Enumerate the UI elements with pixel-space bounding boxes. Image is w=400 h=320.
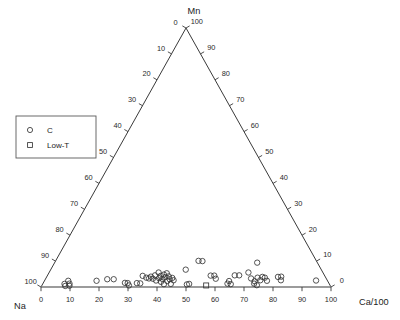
right-axis-tick xyxy=(302,233,306,235)
right-axis-tick-label: 70 xyxy=(236,95,244,104)
left-axis-tick-label: 60 xyxy=(84,173,92,182)
data-point-c xyxy=(200,258,205,263)
axis-tick-labels: 0102030405060708090100100908070605040302… xyxy=(24,17,343,304)
right-axis-tick-label: 80 xyxy=(222,69,230,78)
left-axis-tick xyxy=(66,233,70,235)
legend: CLow-T xyxy=(16,116,96,158)
data-point-c xyxy=(246,270,251,275)
right-axis-tick-label: 90 xyxy=(207,43,215,52)
legend-box xyxy=(16,116,96,158)
right-axis-tick xyxy=(186,26,190,28)
data-point-c xyxy=(183,267,188,272)
data-point-c xyxy=(111,277,116,282)
left-axis-tick xyxy=(124,130,128,132)
right-axis-tick-label: 100 xyxy=(191,17,203,26)
left-axis-tick xyxy=(95,181,99,183)
ternary-diagram-canvas: 0102030405060708090100100908070605040302… xyxy=(0,0,400,320)
right-axis-tick xyxy=(215,78,219,80)
right-axis-tick-label: 50 xyxy=(265,147,273,156)
bottom-axis-tick-label: 40 xyxy=(153,295,161,304)
left-axis-tick xyxy=(110,155,114,157)
right-axis-tick xyxy=(230,104,234,106)
right-axis-tick-label: 0 xyxy=(340,276,344,285)
left-axis-tick-label: 0 xyxy=(174,18,178,27)
right-axis-tick xyxy=(273,181,277,183)
left-axis-tick xyxy=(168,52,172,54)
right-axis-tick-label: 10 xyxy=(323,250,331,259)
left-axis-tick xyxy=(139,104,143,106)
right-axis-tick-label: 60 xyxy=(251,121,259,130)
data-point-c xyxy=(213,276,218,281)
bottom-axis-tick-label: 100 xyxy=(325,295,337,304)
bottom-axis-tick-label: 70 xyxy=(240,295,248,304)
left-axis-tick-label: 20 xyxy=(142,69,150,78)
right-axis-tick xyxy=(244,130,248,132)
bottom-axis-tick-label: 90 xyxy=(298,295,306,304)
legend-label-low-t: Low-T xyxy=(47,141,69,150)
bottom-axis-tick-label: 80 xyxy=(269,295,277,304)
data-point-c xyxy=(248,276,253,281)
right-axis-tick xyxy=(331,285,335,287)
left-axis-tick-label: 40 xyxy=(113,121,121,130)
right-corner-label-ca: Ca/100 xyxy=(359,297,389,307)
left-axis-tick-label: 90 xyxy=(41,251,49,260)
data-point-c xyxy=(138,281,143,286)
left-axis-tick xyxy=(37,285,41,287)
right-axis-tick-label: 30 xyxy=(294,199,302,208)
right-axis-tick xyxy=(201,52,205,54)
left-axis-tick-label: 70 xyxy=(70,199,78,208)
left-axis-tick xyxy=(52,259,56,261)
data-point-c xyxy=(278,278,283,283)
data-point-c xyxy=(313,278,318,283)
bottom-axis-tick-label: 30 xyxy=(124,295,132,304)
left-axis-tick xyxy=(81,207,85,209)
left-axis-tick-label: 10 xyxy=(157,44,165,53)
bottom-axis-tick-label: 20 xyxy=(95,295,103,304)
left-axis-tick-label: 50 xyxy=(99,147,107,156)
right-axis-tick xyxy=(317,259,321,261)
bottom-axis-tick-label: 10 xyxy=(66,295,74,304)
apex-label-mn: Mn xyxy=(188,6,201,16)
left-corner-label-na: Na xyxy=(14,301,27,311)
data-point-c xyxy=(105,277,110,282)
ternary-plot: 0102030405060708090100100908070605040302… xyxy=(0,0,400,320)
vertex-labels: MnNaCa/100 xyxy=(14,6,389,311)
data-point-c xyxy=(94,278,99,283)
left-axis-tick-label: 80 xyxy=(55,225,63,234)
data-points xyxy=(62,258,319,289)
bottom-axis-tick-label: 0 xyxy=(39,295,43,304)
left-axis-tick-label: 100 xyxy=(24,277,36,286)
left-axis-tick xyxy=(153,78,157,80)
bottom-axis-tick-label: 50 xyxy=(182,295,190,304)
data-point-c xyxy=(212,273,217,278)
axis-ticks xyxy=(37,26,334,291)
right-axis-tick xyxy=(259,155,263,157)
legend-label-c: C xyxy=(47,126,53,135)
right-axis-tick-label: 20 xyxy=(309,225,317,234)
left-axis-tick xyxy=(182,26,186,28)
right-axis-tick-label: 40 xyxy=(280,173,288,182)
right-axis-tick xyxy=(288,207,292,209)
bottom-axis-tick-label: 60 xyxy=(211,295,219,304)
left-axis-tick-label: 30 xyxy=(128,95,136,104)
data-point-c xyxy=(255,260,260,265)
